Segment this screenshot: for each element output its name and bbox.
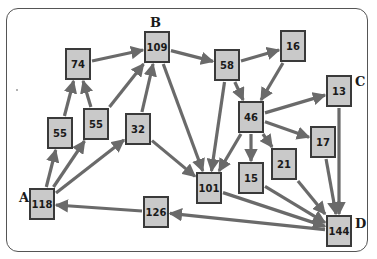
node-101: 101	[196, 172, 222, 204]
node-58: 58	[214, 49, 240, 81]
edge-arrow-58-to-46	[235, 82, 243, 100]
edge-arrow-32-to-109	[142, 64, 153, 112]
node-15: 15	[238, 162, 264, 194]
node-16: 16	[280, 30, 306, 62]
edge-arrow-144-to-126	[170, 213, 325, 229]
edge-arrow-55-to-74	[83, 81, 91, 107]
edge-arrow-46-to-21	[263, 134, 272, 147]
node-118: 118	[29, 188, 55, 220]
label-D: D	[355, 216, 366, 231]
edge-arrow-118-to-55	[46, 150, 55, 187]
edge-arrow-55-to-74	[64, 81, 73, 116]
edge-arrow-58-to-16	[241, 50, 279, 61]
edge-arrow-17-to-144	[326, 159, 336, 214]
edge-arrow-58-to-101	[211, 82, 224, 171]
node-46: 46	[238, 101, 264, 133]
edge-arrow-109-to-58	[171, 51, 213, 62]
edge-arrow-74-to-109	[92, 50, 143, 61]
node-74: 74	[65, 48, 91, 80]
edge-arrow-46-to-17	[265, 122, 309, 137]
node-126: 126	[143, 196, 169, 228]
node-109: 109	[144, 31, 170, 63]
node-13: 13	[326, 75, 352, 107]
label-C: C	[355, 74, 365, 89]
label-B: B	[150, 15, 161, 30]
edge-arrow-55-to-109	[109, 64, 143, 107]
edge-arrow-16-to-46	[261, 63, 283, 100]
edge-arrow-32-to-101	[152, 141, 195, 177]
node-32: 32	[125, 113, 151, 145]
edge-arrow-126-to-118	[56, 205, 142, 211]
label-A: A	[19, 190, 29, 205]
node-55: 55	[83, 108, 109, 140]
node-144: 144	[326, 215, 352, 247]
node-17: 17	[310, 126, 336, 158]
edge-arrow-46-to-13	[265, 95, 325, 113]
node-21: 21	[271, 148, 297, 180]
node-55: 55	[47, 117, 73, 149]
